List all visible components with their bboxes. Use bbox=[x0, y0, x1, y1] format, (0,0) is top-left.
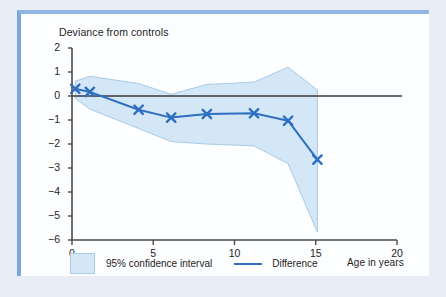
y-tick-label: −2 bbox=[38, 137, 60, 149]
y-tick-label: −1 bbox=[38, 113, 60, 125]
difference-legend-swatch bbox=[234, 263, 262, 265]
difference-legend-label: Difference bbox=[272, 258, 317, 269]
chart-plot-area: Deviance from controls Age in years 210−… bbox=[0, 0, 446, 297]
y-tick-label: 2 bbox=[38, 41, 60, 53]
y-axis-title: Deviance from controls bbox=[59, 26, 169, 38]
x-tick-label: 20 bbox=[385, 247, 409, 259]
y-tick-label: 1 bbox=[38, 65, 60, 77]
chart-legend: 95% confidence interval Difference bbox=[70, 253, 318, 274]
y-tick-label: −4 bbox=[38, 185, 60, 197]
y-tick-label: −6 bbox=[38, 233, 60, 245]
ci-legend-swatch bbox=[70, 253, 95, 274]
y-tick-label: −3 bbox=[38, 161, 60, 173]
y-tick-label: 0 bbox=[38, 89, 60, 101]
confidence-interval-band bbox=[75, 67, 317, 232]
y-tick-label: −5 bbox=[38, 209, 60, 221]
ci-legend-label: 95% confidence interval bbox=[106, 258, 212, 269]
